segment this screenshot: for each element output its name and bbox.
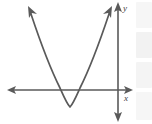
y-axis-label: y <box>122 3 127 13</box>
panel-box-2[interactable] <box>136 32 152 58</box>
panel-box-3[interactable] <box>136 62 152 88</box>
figure-container: y x <box>0 0 152 124</box>
panel-box-1[interactable] <box>136 2 152 28</box>
x-axis-label: x <box>123 93 128 103</box>
panel-box-4[interactable] <box>136 92 152 120</box>
partial-ui-panel <box>134 0 152 124</box>
parabola-graph: y x <box>0 0 152 124</box>
parabola-curve <box>31 14 109 107</box>
